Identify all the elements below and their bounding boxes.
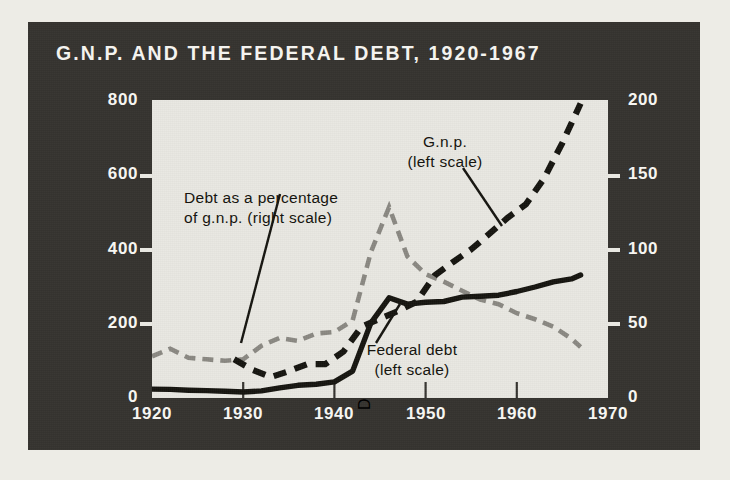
- leader-line-gnp: [463, 168, 502, 226]
- annotation-gnp-line2: (left scale): [390, 152, 500, 172]
- annotation-debt-percent: Debt as a percentage of g.n.p. (right sc…: [184, 188, 338, 227]
- x-tick-1970: 1970: [568, 404, 648, 424]
- annotation-gnp: G.n.p. (left scale): [390, 132, 500, 171]
- x-tick-1930: 1930: [203, 404, 283, 424]
- right-tickmark-50: [606, 322, 620, 326]
- x-tick-1940: 1940: [294, 404, 374, 424]
- x-tick-1950: 1950: [386, 404, 466, 424]
- right-tick-50: 50: [628, 313, 708, 333]
- left-tick-400: 400: [56, 239, 138, 259]
- annotation-gnp-line1: G.n.p.: [390, 132, 500, 152]
- left-tick-600: 600: [56, 164, 138, 184]
- right-tickmark-150: [606, 174, 620, 178]
- x-tickmarks: [243, 382, 517, 398]
- right-tick-150: 150: [628, 164, 708, 184]
- left-tick-800: 800: [56, 90, 138, 110]
- x-tick-1920: 1920: [112, 404, 192, 424]
- plot-area: Debt as a percentage of g.n.p. (right sc…: [152, 100, 608, 398]
- annotation-federal-debt-line2: (left scale): [332, 360, 492, 380]
- annotation-federal-debt-line1: Federal debt: [332, 340, 492, 360]
- right-tick-100: 100: [628, 239, 708, 259]
- right-tick-200: 200: [628, 90, 708, 110]
- annotation-debt-percent-line2: of g.n.p. (right scale): [184, 208, 338, 228]
- chart-page: G.N.P. AND THE FEDERAL DEBT, 1920-1967 G…: [0, 0, 730, 480]
- x-tick-1960: 1960: [477, 404, 557, 424]
- annotation-federal-debt: Federal debt (left scale): [332, 340, 492, 379]
- right-tickmark-100: [606, 248, 620, 252]
- chart-title: G.N.P. AND THE FEDERAL DEBT, 1920-1967: [56, 42, 541, 65]
- left-tick-200: 200: [56, 313, 138, 333]
- annotation-debt-percent-line1: Debt as a percentage: [184, 188, 338, 208]
